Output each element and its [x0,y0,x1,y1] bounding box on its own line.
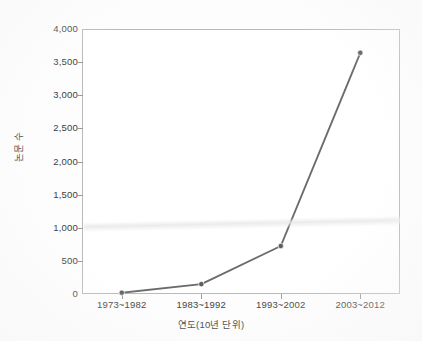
y-axis-tick-label: 3,000 [2,91,78,101]
y-axis-tick-label: 4,000 [2,24,78,34]
chart-page: 05001,0001,5002,0002,5003,0003,5004,000 … [0,0,422,341]
y-axis-tick-label: 1,500 [2,190,78,200]
x-axis-tick-label: 1973~1982 [97,299,147,310]
x-axis-tick-label: 1993~2002 [256,299,306,310]
y-axis-tick-labels: 05001,0001,5002,0002,5003,0003,5004,000 [0,0,78,341]
y-axis-title: 논문 수 [11,132,25,162]
plot-frame [82,29,400,294]
y-axis-tick-label: 500 [2,256,78,266]
y-axis-tick-label: 3,500 [2,57,78,67]
x-axis-tick-label: 1983~1992 [176,299,226,310]
y-axis-tick-label: 0 [2,289,78,299]
x-axis-tick-label: 2003~2012 [335,299,385,310]
y-axis-tick-label: 1,000 [2,223,78,233]
x-axis-title: 연도(10년 단위) [0,317,422,331]
